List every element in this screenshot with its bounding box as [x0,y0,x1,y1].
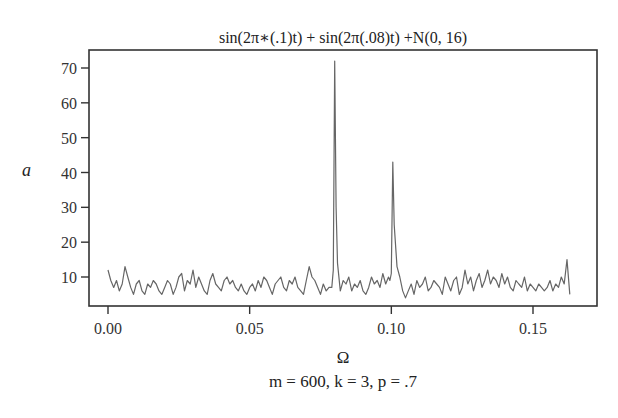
chart-subtitle: m = 600, k = 3, p = .7 [89,372,597,392]
y-tick-label: 10 [61,269,77,286]
y-tick-label: 60 [61,95,77,112]
y-tick-label: 20 [61,234,77,251]
y-axis-label: a [22,160,31,181]
x-tick-label: 0.10 [377,320,405,337]
x-tick-label: 0.05 [236,320,264,337]
y-tick-label: 50 [61,130,77,147]
x-tick-label: 0.00 [94,320,122,337]
y-tick-label: 40 [61,165,77,182]
x-axis-ticks: 0.000.050.100.15 [94,306,547,337]
x-axis-label: Ω [89,348,597,368]
y-tick-label: 30 [61,199,77,216]
x-tick-label: 0.15 [519,320,547,337]
axes-frame [89,50,597,306]
y-tick-label: 70 [61,60,77,77]
y-axis-ticks: 10203040506070 [61,60,89,286]
data-line [108,61,570,298]
